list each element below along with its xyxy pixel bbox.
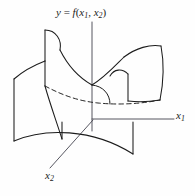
surface-figure: y = f(x1, x2) x1 x2 bbox=[0, 0, 195, 196]
x1-axis-label: x1 bbox=[176, 110, 185, 123]
surface-top-left-sweep bbox=[14, 61, 45, 79]
x1-axis-label-sub: 1 bbox=[181, 114, 185, 123]
origin-arc-group bbox=[92, 85, 110, 104]
figure-canvas bbox=[0, 0, 195, 196]
surface-left-peak-arc bbox=[45, 30, 60, 50]
function-label: y = f(x1, x2) bbox=[56, 7, 106, 20]
surface-right-notch-arc bbox=[110, 70, 128, 76]
function-label-close: ) bbox=[103, 6, 107, 18]
x2-axis-label-sub: 2 bbox=[50, 174, 54, 183]
surface-right-lower-edge bbox=[128, 100, 160, 102]
surface-right-edge bbox=[160, 46, 163, 100]
surface-left-descent bbox=[60, 50, 92, 85]
origin-quarter-arc bbox=[92, 85, 110, 104]
axes-group bbox=[50, 22, 174, 168]
surface-front-left-fold bbox=[45, 86, 62, 139]
surface-right-rise bbox=[92, 57, 124, 85]
surface-bottom-arc bbox=[14, 132, 133, 154]
surface-right-top-edge bbox=[124, 45, 161, 57]
function-label-equals: = bbox=[64, 6, 70, 18]
surface-outline-group bbox=[14, 30, 163, 154]
x2-axis-label: x2 bbox=[45, 170, 54, 183]
x2-axis-line bbox=[50, 120, 93, 168]
